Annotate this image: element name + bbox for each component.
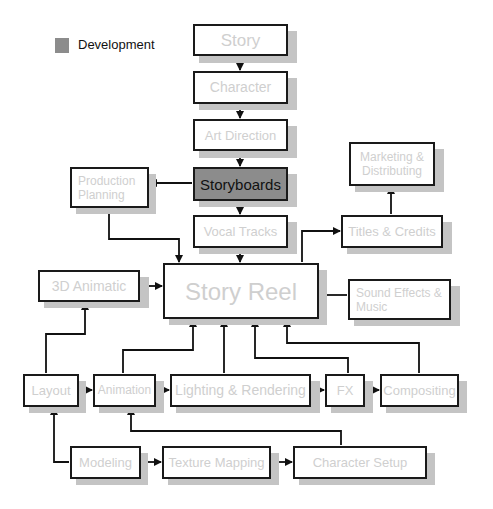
- node-storyboards: Storyboards: [193, 167, 288, 201]
- node-compositing: Compositing: [380, 374, 459, 407]
- node-art-direction: Art Direction: [193, 119, 288, 151]
- node-label: Modeling: [79, 455, 132, 470]
- node-layout: Layout: [23, 374, 79, 407]
- node-label: Character: [210, 80, 271, 95]
- node-label: FX: [337, 383, 354, 398]
- node-texture-mapping: Texture Mapping: [162, 446, 271, 479]
- node-label: Art Direction: [205, 128, 277, 143]
- pipeline-diagram: Development: [0, 0, 493, 509]
- node-label: Titles & Credits: [348, 224, 436, 239]
- node-production-planning: Production Planning: [70, 167, 149, 208]
- node-label: Story Reel: [185, 284, 297, 299]
- node-label: Production Planning: [78, 174, 147, 202]
- node-label: Sound Effects & Music: [356, 286, 446, 314]
- node-label: Character Setup: [313, 455, 408, 470]
- node-marketing-distributing: Marketing & Distributing: [349, 142, 435, 186]
- node-label: Story: [221, 33, 261, 48]
- node-character: Character: [193, 71, 288, 104]
- node-label: Texture Mapping: [168, 455, 264, 470]
- node-label: Vocal Tracks: [204, 224, 278, 239]
- node-story-reel: Story Reel: [163, 263, 319, 319]
- node-label: Lighting & Rendering: [175, 383, 306, 398]
- node-modeling: Modeling: [70, 446, 141, 479]
- node-label: Storyboards: [200, 177, 281, 192]
- node-sound-effects-music: Sound Effects & Music: [348, 279, 451, 320]
- node-animation: Animation: [93, 374, 156, 407]
- node-fx: FX: [325, 374, 365, 407]
- node-label: Layout: [31, 383, 70, 398]
- node-3d-animatic: 3D Animatic: [38, 270, 140, 302]
- node-label: Animation: [98, 383, 151, 398]
- node-label: Compositing: [383, 383, 455, 398]
- node-vocal-tracks: Vocal Tracks: [193, 215, 288, 248]
- node-label: 3D Animatic: [52, 279, 127, 294]
- node-label: Marketing & Distributing: [356, 150, 428, 178]
- node-character-setup: Character Setup: [293, 446, 427, 479]
- node-titles-credits: Titles & Credits: [341, 215, 443, 248]
- node-lighting-rendering: Lighting & Rendering: [170, 374, 311, 407]
- node-story: Story: [193, 24, 288, 56]
